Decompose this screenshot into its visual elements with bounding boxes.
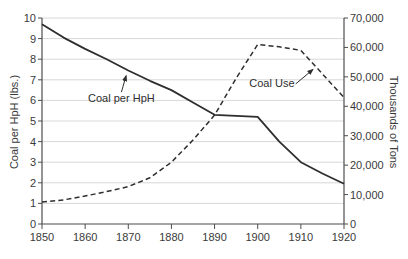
right-tick-label: 10,000 <box>350 189 384 201</box>
left-tick-label: 5 <box>30 115 36 127</box>
x-tick-label: 1920 <box>332 231 356 243</box>
left-axis-ticks: 012345678910 <box>24 12 42 230</box>
right-tick-label: 70,000 <box>350 12 384 24</box>
x-tick-label: 1870 <box>116 231 140 243</box>
x-tick-label: 1850 <box>30 231 54 243</box>
left-tick-label: 4 <box>30 136 36 148</box>
x-tick-label: 1890 <box>202 231 226 243</box>
right-axis-ticks: 010,00020,00030,00040,00050,00060,00070,… <box>344 12 384 230</box>
left-tick-label: 0 <box>30 218 36 230</box>
left-axis-title: Coal per HpH (lbs.) <box>8 75 20 169</box>
coal-use-line <box>42 45 344 202</box>
right-tick-label: 50,000 <box>350 71 384 83</box>
x-tick-label: 1900 <box>245 231 269 243</box>
left-tick-label: 3 <box>30 156 36 168</box>
right-axis-title: Thousands of Tons <box>388 76 400 169</box>
left-tick-label: 10 <box>24 12 36 24</box>
grid-lines <box>42 18 344 203</box>
x-tick-label: 1860 <box>73 231 97 243</box>
annotation-coal-use-label: Coal Use <box>249 77 294 89</box>
x-tick-label: 1880 <box>159 231 183 243</box>
right-tick-label: 20,000 <box>350 159 384 171</box>
left-tick-label: 2 <box>30 177 36 189</box>
left-tick-label: 6 <box>30 94 36 106</box>
x-tick-label: 1910 <box>289 231 313 243</box>
chart-canvas: 012345678910010,00020,00030,00040,00050,… <box>0 0 408 259</box>
right-tick-label: 0 <box>350 218 356 230</box>
left-tick-label: 1 <box>30 197 36 209</box>
left-tick-label: 8 <box>30 53 36 65</box>
chart-figure: 012345678910010,00020,00030,00040,00050,… <box>0 0 408 259</box>
annotation-arrow <box>296 70 313 84</box>
left-tick-label: 7 <box>30 74 36 86</box>
left-tick-label: 9 <box>30 33 36 45</box>
right-tick-label: 30,000 <box>350 130 384 142</box>
x-axis-ticks: 18501860187018801890190019101920 <box>30 224 356 243</box>
right-tick-label: 60,000 <box>350 41 384 53</box>
right-tick-label: 40,000 <box>350 100 384 112</box>
annotation-arrow <box>121 76 126 92</box>
annotation-coal-per-hph-label: Coal per HpH <box>88 92 155 104</box>
